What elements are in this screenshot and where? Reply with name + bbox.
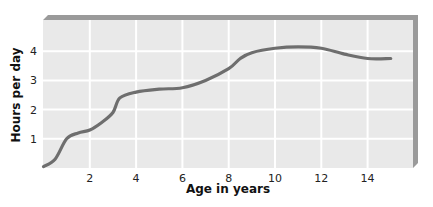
x-tick-label: 6 [179, 172, 186, 185]
y-tick-label: 2 [30, 104, 37, 117]
x-axis-label: Age in years [186, 182, 270, 196]
x-tick-label: 2 [86, 172, 93, 185]
plot-frame [43, 15, 418, 168]
y-axis-ticks: 1234 [30, 45, 37, 146]
y-tick-label: 3 [30, 74, 37, 87]
y-tick-label: 4 [30, 45, 37, 58]
y-axis-label: Hours per day [9, 47, 23, 142]
x-tick-label: 14 [361, 172, 375, 185]
x-tick-label: 10 [268, 172, 282, 185]
line-chart: 2468101214 1234 Age in years Hours per d… [0, 0, 433, 207]
x-tick-label: 4 [133, 172, 140, 185]
y-tick-label: 1 [30, 133, 37, 146]
x-tick-label: 12 [314, 172, 328, 185]
